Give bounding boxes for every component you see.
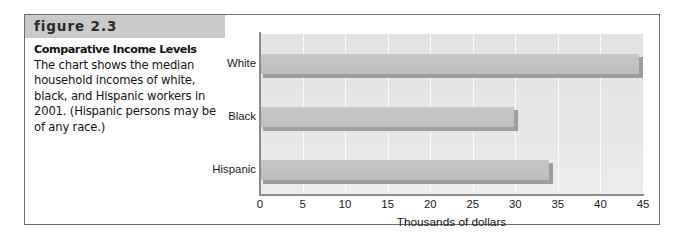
figure-number-label: figure 2.3 [34, 18, 117, 34]
bar-row [260, 160, 643, 186]
x-tick-30: 30 [502, 198, 528, 210]
bar-row [260, 107, 643, 133]
category-label-white: White [227, 57, 256, 69]
bar-hispanic[interactable] [260, 160, 549, 180]
x-tick-35: 35 [545, 198, 571, 210]
x-axis-line [259, 194, 644, 196]
figure-root: figure 2.3 Comparative Income Levels The… [0, 0, 679, 240]
bar-white[interactable] [260, 54, 639, 74]
plot-area [260, 34, 643, 194]
x-tick-40: 40 [587, 198, 613, 210]
x-axis-title: Thousands of dollars [260, 215, 643, 229]
bar-shadow-bottom [263, 74, 642, 78]
bar-row [260, 54, 643, 80]
category-label-black: Black [228, 110, 256, 122]
x-tick-20: 20 [417, 198, 443, 210]
x-tick-15: 15 [375, 198, 401, 210]
x-tick-25: 25 [460, 198, 486, 210]
bar-shadow-bottom [263, 180, 552, 184]
x-tick-5: 5 [290, 198, 316, 210]
x-tick-0: 0 [247, 198, 273, 210]
x-tick-10: 10 [332, 198, 358, 210]
y-axis-line [259, 32, 261, 196]
x-tick-45: 45 [630, 198, 656, 210]
category-label-hispanic: Hispanic [212, 163, 256, 175]
bar-black[interactable] [260, 107, 514, 127]
bar-chart: WhiteBlackHispanic 051015202530354045 Th… [200, 22, 652, 217]
bar-shadow-bottom [263, 127, 517, 131]
